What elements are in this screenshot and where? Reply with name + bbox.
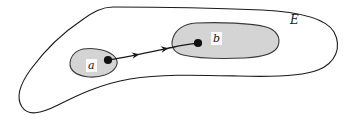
outer-set-label: E [290,14,299,26]
subregion-b-shape [172,23,279,59]
point-in-subregion-a [104,56,112,64]
subregion-a-label: a [86,59,97,72]
subregion-b-label: b [211,32,222,45]
diagram-canvas [0,0,353,123]
set-diagram-figure: a b E [0,0,353,123]
point-in-subregion-b [194,39,202,47]
